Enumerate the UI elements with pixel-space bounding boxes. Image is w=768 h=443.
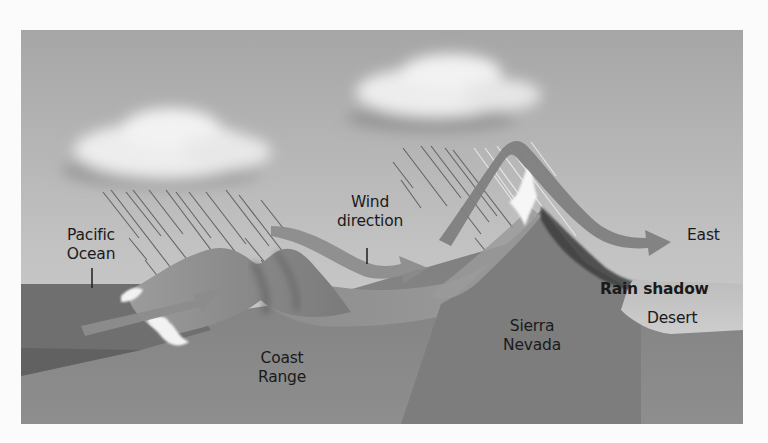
- sierra-label-line2: Nevada: [495, 336, 569, 355]
- wind-label-line2: direction: [335, 212, 405, 231]
- desert-label: Desert: [647, 309, 697, 328]
- east-label-text: East: [687, 226, 720, 244]
- pacific-ocean-label: Pacific Ocean: [56, 226, 126, 264]
- coast-range-label: Coast Range: [249, 349, 315, 387]
- pacific-label-line2: Ocean: [56, 245, 126, 264]
- rain-shadow-label-text: Rain shadow: [600, 280, 709, 298]
- sierra-nevada-label: Sierra Nevada: [495, 317, 569, 355]
- rain-shadow-diagram: Wind direction Pacific Ocean East Rain s…: [21, 30, 743, 424]
- coast-label-line1: Coast: [249, 349, 315, 368]
- desert-label-text: Desert: [647, 309, 697, 327]
- sierra-label-line1: Sierra: [495, 317, 569, 336]
- pacific-label-line1: Pacific: [56, 226, 126, 245]
- east-label: East: [687, 226, 720, 245]
- wind-direction-label: Wind direction: [335, 193, 405, 231]
- coast-label-line2: Range: [249, 368, 315, 387]
- rain-shadow-label: Rain shadow: [600, 280, 709, 299]
- wind-label-line1: Wind: [335, 193, 405, 212]
